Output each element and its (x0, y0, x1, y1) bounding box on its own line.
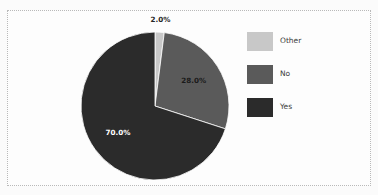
legend-label-yes: Yes (280, 103, 292, 111)
pie-svg: 2.0%28.0%70.0% (0, 0, 378, 195)
legend-item-other[interactable]: Other (247, 30, 309, 52)
pie-label-other: 2.0% (150, 15, 170, 24)
figure-canvas: 2.0%28.0%70.0% OtherNoYes (0, 0, 378, 195)
legend-swatch-no (247, 65, 273, 84)
legend-label-other: Other (280, 37, 301, 45)
legend-swatch-yes (247, 98, 273, 117)
chart-legend: OtherNoYes (247, 30, 309, 118)
pie-label-yes: 70.0% (105, 128, 130, 137)
pie-label-no: 28.0% (181, 76, 206, 85)
legend-item-no[interactable]: No (247, 63, 309, 85)
pie-chart: 2.0%28.0%70.0% (0, 0, 378, 195)
legend-label-no: No (280, 70, 290, 78)
legend-swatch-other (247, 32, 273, 51)
pie-slices (81, 32, 229, 180)
legend-item-yes[interactable]: Yes (247, 96, 309, 118)
